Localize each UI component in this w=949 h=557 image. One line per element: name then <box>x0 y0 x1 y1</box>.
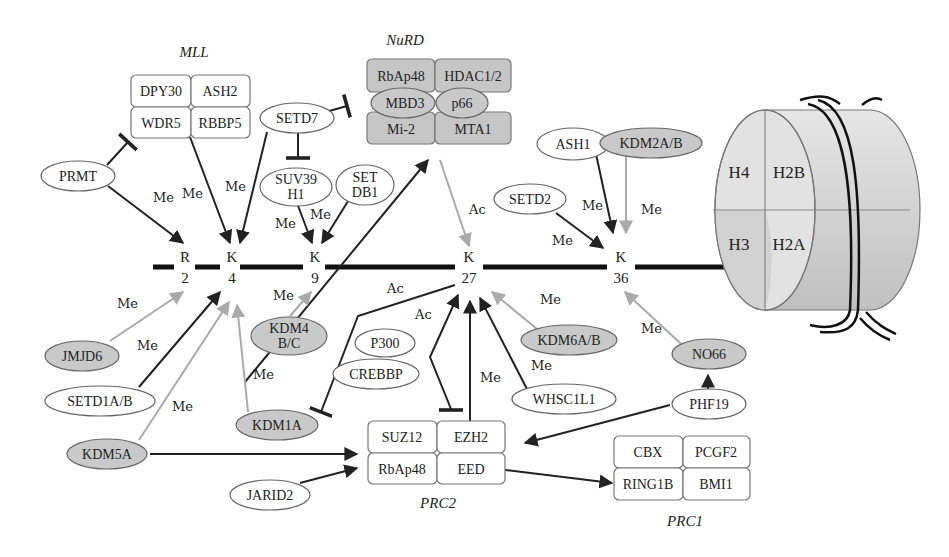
svg-text:K: K <box>227 249 238 265</box>
svg-text:SET: SET <box>353 170 378 185</box>
svg-text:KDM5A: KDM5A <box>82 447 133 462</box>
svg-text:Mi-2: Mi-2 <box>387 122 415 137</box>
svg-text:K: K <box>464 249 475 265</box>
svg-text:DPY30: DPY30 <box>140 84 182 99</box>
prc1-complex: CBX PCGF2 RING1B BMI1 PRC1 <box>614 436 750 529</box>
nucleosome: H4 H2B H3 H2A <box>713 97 920 340</box>
svg-text:SUZ12: SUZ12 <box>382 430 422 445</box>
node-no66: NO66 <box>672 339 746 369</box>
svg-text:RbAp48: RbAp48 <box>377 69 424 84</box>
svg-text:PRC1: PRC1 <box>666 513 703 529</box>
svg-text:MBD3: MBD3 <box>386 96 425 111</box>
node-jmjd6: JMJD6 <box>45 341 119 371</box>
svg-text:WHSC1L1: WHSC1L1 <box>533 392 596 407</box>
svg-text:KDM6A/B: KDM6A/B <box>537 333 600 348</box>
histone-h2a: H2A <box>772 235 806 254</box>
node-prmt: PRMT <box>41 161 115 191</box>
histone-h2b: H2B <box>773 163 805 182</box>
svg-text:Me: Me <box>582 198 603 213</box>
histone-h3: H3 <box>729 235 750 254</box>
node-p300: P300 <box>355 329 415 357</box>
svg-text:ASH2: ASH2 <box>202 84 237 99</box>
histone-h4: H4 <box>729 163 750 182</box>
svg-text:2: 2 <box>181 270 189 286</box>
node-kdm5a: KDM5A <box>67 439 147 469</box>
svg-text:Me: Me <box>225 179 246 194</box>
svg-text:K: K <box>616 249 627 265</box>
svg-text:PHF19: PHF19 <box>689 397 729 412</box>
node-setd2: SETD2 <box>494 184 566 214</box>
node-setd1ab: SETD1A/B <box>45 386 155 416</box>
node-crebbp: CREBBP <box>333 359 419 389</box>
svg-text:SUV39: SUV39 <box>275 172 317 187</box>
svg-text:Me: Me <box>275 216 296 231</box>
svg-text:PRC2: PRC2 <box>419 495 456 511</box>
node-kdm1a: KDM1A <box>236 410 318 440</box>
histone-modification-diagram: R 2 K 4 K 9 K 27 K 36 H4 H2B H3 H2A <box>0 0 949 557</box>
svg-text:Me: Me <box>273 288 294 303</box>
svg-text:CBX: CBX <box>634 445 663 460</box>
svg-text:Me: Me <box>540 292 561 307</box>
node-phf19: PHF19 <box>672 389 746 419</box>
svg-text:SETD1A/B: SETD1A/B <box>67 394 132 409</box>
node-suv39h1: SUV39 H1 <box>260 168 332 206</box>
svg-text:MTA1: MTA1 <box>455 122 492 137</box>
svg-text:KDM1A: KDM1A <box>252 418 303 433</box>
svg-text:KDM4: KDM4 <box>269 321 309 336</box>
residue-k36: K 36 <box>614 249 630 286</box>
node-ash1: ASH1 <box>537 128 609 160</box>
svg-text:PCGF2: PCGF2 <box>695 445 737 460</box>
svg-text:36: 36 <box>614 270 630 286</box>
svg-text:DB1: DB1 <box>352 185 378 200</box>
svg-text:9: 9 <box>311 270 319 286</box>
residue-r2: R 2 <box>180 249 190 286</box>
svg-text:NO66: NO66 <box>692 347 726 362</box>
node-setd7: SETD7 <box>260 103 334 133</box>
node-kdm2ab: KDM2A/B <box>600 128 702 158</box>
svg-text:B/C: B/C <box>278 336 301 351</box>
svg-text:R: R <box>180 249 190 265</box>
nurd-complex: NuRD RbAp48 HDAC1/2 MBD3 p66 Mi-2 MTA1 <box>367 32 511 144</box>
svg-text:Me: Me <box>531 358 552 373</box>
node-setdb1: SET DB1 <box>336 165 394 205</box>
svg-text:Me: Me <box>137 338 158 353</box>
residue-k4: K 4 <box>227 249 238 286</box>
svg-text:P300: P300 <box>371 336 400 351</box>
svg-text:Me: Me <box>153 190 174 205</box>
svg-text:JMJD6: JMJD6 <box>62 349 102 364</box>
svg-text:Ac: Ac <box>468 202 486 217</box>
svg-text:Me: Me <box>641 202 662 217</box>
svg-text:Me: Me <box>117 296 138 311</box>
svg-text:SETD2: SETD2 <box>509 192 551 207</box>
svg-text:KDM2A/B: KDM2A/B <box>619 136 682 151</box>
svg-text:BMI1: BMI1 <box>699 477 732 492</box>
svg-text:CREBBP: CREBBP <box>349 367 403 382</box>
node-whsc1l1: WHSC1L1 <box>512 384 616 414</box>
svg-text:ASH1: ASH1 <box>555 137 590 152</box>
svg-text:Ac: Ac <box>414 307 432 322</box>
svg-text:Me: Me <box>253 367 274 382</box>
prc2-complex: SUZ12 EZH2 RbAp48 EED PRC2 <box>368 421 505 511</box>
svg-text:WDR5: WDR5 <box>141 116 181 131</box>
svg-text:RBBP5: RBBP5 <box>199 116 242 131</box>
svg-text:EED: EED <box>457 462 484 477</box>
svg-text:NuRD: NuRD <box>385 32 424 48</box>
svg-text:p66: p66 <box>452 96 473 111</box>
svg-text:RbAp48: RbAp48 <box>378 462 425 477</box>
svg-text:MLL: MLL <box>178 44 208 60</box>
svg-text:Me: Me <box>552 233 573 248</box>
svg-text:SETD7: SETD7 <box>276 111 318 126</box>
svg-text:Me: Me <box>172 399 193 414</box>
node-kdm6ab: KDM6A/B <box>521 325 617 355</box>
svg-text:H1: H1 <box>287 187 304 202</box>
node-jarid2: JARID2 <box>230 480 310 510</box>
svg-text:27: 27 <box>462 270 478 286</box>
svg-text:Ac: Ac <box>386 281 404 296</box>
svg-text:HDAC1/2: HDAC1/2 <box>444 69 502 84</box>
svg-text:Me: Me <box>182 186 203 201</box>
svg-text:Me: Me <box>310 207 331 222</box>
residue-k27: K 27 <box>462 249 478 286</box>
svg-text:PRMT: PRMT <box>59 169 98 184</box>
svg-text:4: 4 <box>228 270 236 286</box>
svg-text:EZH2: EZH2 <box>454 430 488 445</box>
